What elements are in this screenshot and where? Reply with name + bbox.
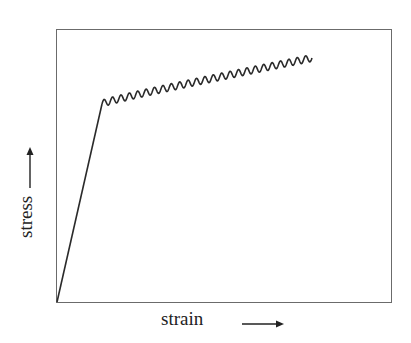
- stress-strain-plot: [0, 0, 411, 343]
- y-axis-label: stress: [15, 196, 37, 238]
- elastic-line: [57, 104, 102, 302]
- y-arrow-icon: [27, 147, 34, 188]
- serrated-flow-curve: [102, 56, 312, 105]
- x-axis-label: strain: [161, 308, 203, 330]
- x-arrow-icon: [242, 321, 284, 328]
